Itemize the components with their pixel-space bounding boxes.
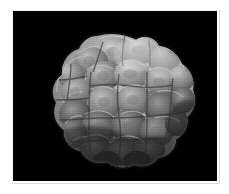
- specimen-body: [37, 30, 201, 170]
- micrograph-plate: [13, 11, 217, 181]
- sem-figure: [0, 0, 229, 194]
- specimen-lobed-microfossil: [37, 30, 201, 170]
- sem-noise: [37, 30, 201, 170]
